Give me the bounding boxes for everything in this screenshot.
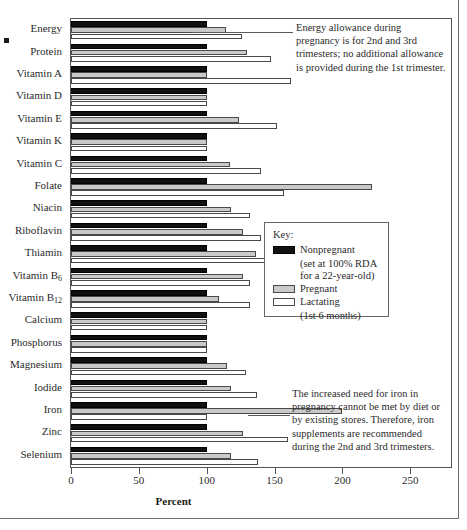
bar-thiamin-pregnant [71, 251, 256, 257]
bar-energy-nonpregnant [71, 21, 207, 27]
bar-vitamin-e-lactating [71, 123, 277, 129]
bar-iodide-lactating [71, 392, 257, 398]
legend-label-lactating: Lactating [300, 296, 340, 309]
category-label-zinc: Zinc [42, 426, 62, 437]
category-label-protein: Protein [30, 46, 62, 57]
bar-iodide-nonpregnant [71, 380, 207, 386]
bar-niacin-lactating [71, 213, 250, 219]
bar-vitamin-c-pregnant [71, 162, 230, 168]
legend-label-pregnant: Pregnant [300, 283, 337, 296]
bar-vitamin-c-lactating [71, 168, 261, 174]
bar-zinc-lactating [71, 437, 288, 443]
bar-zinc-pregnant [71, 431, 243, 437]
bar-vitamin-k-lactating [71, 146, 207, 152]
category-label-thiamin: Thiamin [25, 247, 62, 258]
bar-selenium-pregnant [71, 453, 231, 459]
legend-title: Key: [273, 229, 382, 241]
bar-phosphorus-lactating [71, 347, 207, 353]
bar-vitamin-d-nonpregnant [71, 88, 207, 94]
bar-vitamin-d-lactating [71, 101, 207, 107]
bar-phosphorus-pregnant [71, 341, 207, 347]
category-label-vitamin-a: Vitamin A [17, 68, 62, 79]
bar-magnesium-nonpregnant [71, 357, 207, 363]
bar-magnesium-pregnant [71, 363, 227, 369]
bar-vitamin-b12-pregnant [71, 296, 219, 302]
legend-entry-nonpregnant: Nonpregnant [273, 244, 382, 257]
bar-vitamin-b12-nonpregnant [71, 290, 207, 296]
x-tick-label-250: 250 [402, 474, 419, 487]
category-label-niacin: Niacin [33, 202, 62, 213]
energy-annotation-text: Energy allowance during pregnancy is for… [296, 21, 446, 74]
bar-selenium-nonpregnant [71, 447, 207, 453]
category-label-vitamin-b6: Vitamin B6 [13, 270, 62, 282]
bar-vitamin-e-pregnant [71, 117, 239, 123]
bar-energy-lactating [71, 34, 242, 40]
bar-vitamin-c-nonpregnant [71, 156, 207, 162]
bar-iodide-pregnant [71, 386, 231, 392]
bar-protein-lactating [71, 56, 271, 62]
bar-thiamin-lactating [71, 258, 268, 264]
bar-protein-pregnant [71, 50, 247, 56]
figure-container: EnergyProteinVitamin AVitamin DVitamin E… [0, 0, 467, 530]
bar-iron-nonpregnant [71, 402, 207, 408]
category-label-selenium: Selenium [20, 449, 62, 460]
bar-niacin-nonpregnant [71, 200, 207, 206]
legend-entry-pregnant: Pregnant [273, 283, 382, 296]
bar-vitamin-k-nonpregnant [71, 133, 207, 139]
chart-legend: Key: Nonpregnant(set at 100% RDAfor a 22… [264, 222, 389, 317]
bar-vitamin-k-pregnant [71, 139, 207, 145]
bar-iron-lactating [71, 414, 207, 420]
bar-magnesium-lactating [71, 370, 246, 376]
bar-folate-pregnant [71, 184, 372, 190]
bar-folate-lactating [71, 190, 284, 196]
bar-vitamin-b6-pregnant [71, 274, 243, 280]
category-label-phosphorus: Phosphorus [11, 337, 62, 348]
bar-vitamin-d-pregnant [71, 95, 207, 101]
category-label-vitamin-k: Vitamin K [16, 135, 62, 146]
bar-vitamin-a-lactating [71, 78, 291, 84]
x-tick-label-200: 200 [334, 474, 351, 487]
category-label-vitamin-c: Vitamin C [17, 158, 62, 169]
category-label-iron: Iron [44, 404, 62, 415]
x-tick-label-50: 50 [133, 474, 144, 487]
category-label-vitamin-d: Vitamin D [16, 90, 62, 101]
category-label-iodide: Iodide [34, 382, 62, 393]
legend-swatch-pregnant [273, 285, 295, 293]
legend-entries: Nonpregnant(set at 100% RDAfor a 22-year… [273, 244, 382, 322]
category-label-vitamin-e: Vitamin E [17, 113, 62, 124]
bar-vitamin-b6-lactating [71, 280, 250, 286]
category-axis-labels: EnergyProteinVitamin AVitamin DVitamin E… [0, 18, 66, 468]
bar-protein-nonpregnant [71, 44, 207, 50]
category-label-folate: Folate [35, 180, 63, 191]
x-axis-tick-labels: 050100150200250 [0, 474, 460, 490]
category-label-magnesium: Magnesium [10, 359, 62, 370]
energy-annotation-leader-line [191, 32, 293, 33]
bar-riboflavin-pregnant [71, 229, 243, 235]
category-label-riboflavin: Riboflavin [15, 225, 62, 236]
bar-folate-nonpregnant [71, 178, 207, 184]
bar-thiamin-nonpregnant [71, 245, 207, 251]
bar-calcium-lactating [71, 325, 207, 331]
bar-zinc-nonpregnant [71, 424, 207, 430]
category-label-energy: Energy [30, 23, 62, 34]
category-label-vitamin-b12: Vitamin B12 [9, 292, 62, 304]
bar-selenium-lactating [71, 459, 258, 465]
bar-vitamin-a-nonpregnant [71, 66, 207, 72]
bar-riboflavin-nonpregnant [71, 223, 207, 229]
bar-vitamin-b6-nonpregnant [71, 268, 207, 274]
bar-niacin-pregnant [71, 207, 231, 213]
bar-calcium-nonpregnant [71, 312, 207, 318]
iron-annotation-text: The increased need for iron in pregnancy… [292, 387, 450, 453]
iron-annotation-leader-line [248, 415, 290, 416]
legend-subline-lactating-0: (1st 6 months) [300, 310, 382, 323]
bar-vitamin-b12-lactating [71, 302, 250, 308]
x-tick-label-150: 150 [266, 474, 283, 487]
x-axis-title: Percent [71, 495, 276, 507]
legend-label-nonpregnant: Nonpregnant [300, 244, 355, 257]
x-tick-label-100: 100 [198, 474, 215, 487]
x-tick-label-0: 0 [68, 474, 74, 487]
bar-calcium-pregnant [71, 319, 207, 325]
bar-riboflavin-lactating [71, 235, 261, 241]
legend-swatch-nonpregnant [273, 246, 295, 254]
category-label-calcium: Calcium [25, 314, 62, 325]
